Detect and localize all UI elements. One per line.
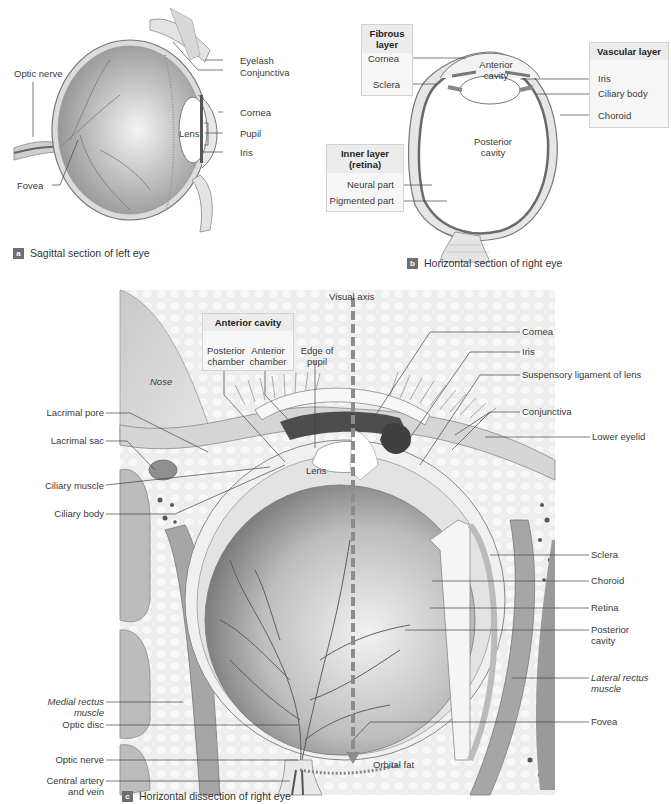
- caption-panel-c: c Horizontal dissection of right eye: [122, 790, 291, 802]
- label-cornea-b: Cornea: [368, 53, 399, 64]
- label-lens-c: Lens: [306, 465, 327, 476]
- label-neural-part-b: Neural part: [340, 179, 394, 190]
- label-sclera-c: Sclera: [591, 549, 618, 560]
- label-lower-eyelid: Lower eyelid: [592, 431, 645, 442]
- caption-text-c: Horizontal dissection of right eye: [139, 790, 291, 802]
- label-retina-c: Retina: [591, 602, 618, 613]
- label-lateral-rectus-muscle: Lateral rectus muscle: [591, 672, 649, 694]
- label-orbital-fat: Orbital fat: [373, 759, 414, 770]
- label-cornea-c: Cornea: [522, 326, 553, 337]
- label-posterior-cavity-c: Posterior cavity: [591, 624, 635, 646]
- label-optic-disc: Optic disc: [10, 719, 104, 730]
- label-medial-rectus-muscle: Medial rectus muscle: [30, 696, 104, 718]
- label-nose: Nose: [150, 376, 172, 387]
- label-conjunctiva-c: Conjunctiva: [522, 406, 572, 417]
- label-iris-a: Iris: [240, 147, 253, 158]
- label-posterior-chamber: Posterior chamber: [205, 345, 247, 367]
- label-fovea-a: Fovea: [17, 180, 43, 191]
- panel-badge-a: a: [13, 248, 24, 259]
- label-anterior-cavity-b: Anterior cavity: [474, 59, 518, 81]
- panel-c-illustration: [106, 290, 590, 795]
- label-optic-nerve-c: Optic nerve: [10, 754, 104, 765]
- label-choroid-b: Choroid: [598, 110, 631, 121]
- box-vascular-title: Vascular layer: [590, 43, 668, 60]
- label-lacrimal-sac: Lacrimal sac: [10, 435, 104, 446]
- label-optic-nerve-a: Optic nerve: [14, 68, 63, 79]
- label-sclera-b: Sclera: [373, 79, 400, 90]
- label-iris-c: Iris: [522, 346, 535, 357]
- label-fovea-c: Fovea: [591, 716, 617, 727]
- label-pupil-a: Pupil: [240, 128, 261, 139]
- box-inner-title: Inner layer (retina): [327, 145, 403, 173]
- label-edge-of-pupil: Edge of pupil: [300, 345, 334, 367]
- caption-text-a: Sagittal section of left eye: [30, 247, 150, 259]
- label-cornea-a: Cornea: [240, 107, 271, 118]
- label-ciliary-body-c: Ciliary body: [10, 508, 104, 519]
- panel-badge-c: c: [122, 791, 133, 802]
- box-fibrous-title: Fibrous layer: [362, 25, 412, 53]
- label-lacrimal-pore: Lacrimal pore: [10, 407, 104, 418]
- label-anterior-chamber: Anterior chamber: [247, 345, 289, 367]
- box-anterior-cavity-title: Anterior cavity: [203, 314, 293, 331]
- panel-a-illustration: [14, 8, 223, 232]
- caption-panel-b: b Horizontal section of right eye: [407, 257, 562, 269]
- label-suspensory-ligament: Suspensory ligament of lens: [522, 369, 641, 380]
- label-ciliary-muscle: Ciliary muscle: [40, 480, 104, 491]
- label-conjunctiva-a: Conjunctiva: [240, 67, 290, 78]
- label-pigmented-part-b: Pigmented part: [326, 195, 394, 206]
- label-iris-b: Iris: [598, 73, 611, 84]
- label-choroid-c: Choroid: [591, 575, 624, 586]
- label-central-artery-and-vein: Central artery and vein: [30, 775, 104, 797]
- label-visual-axis: Visual axis: [329, 291, 374, 302]
- label-ciliary-body-b: Ciliary body: [598, 88, 648, 99]
- label-lens-a: Lens: [179, 128, 200, 139]
- caption-panel-a: a Sagittal section of left eye: [13, 247, 150, 259]
- caption-text-b: Horizontal section of right eye: [424, 257, 562, 269]
- figure-illustrations: [0, 0, 671, 804]
- label-posterior-cavity-b: Posterior cavity: [470, 136, 516, 158]
- label-eyelash-a: Eyelash: [240, 55, 274, 66]
- panel-badge-b: b: [407, 258, 418, 269]
